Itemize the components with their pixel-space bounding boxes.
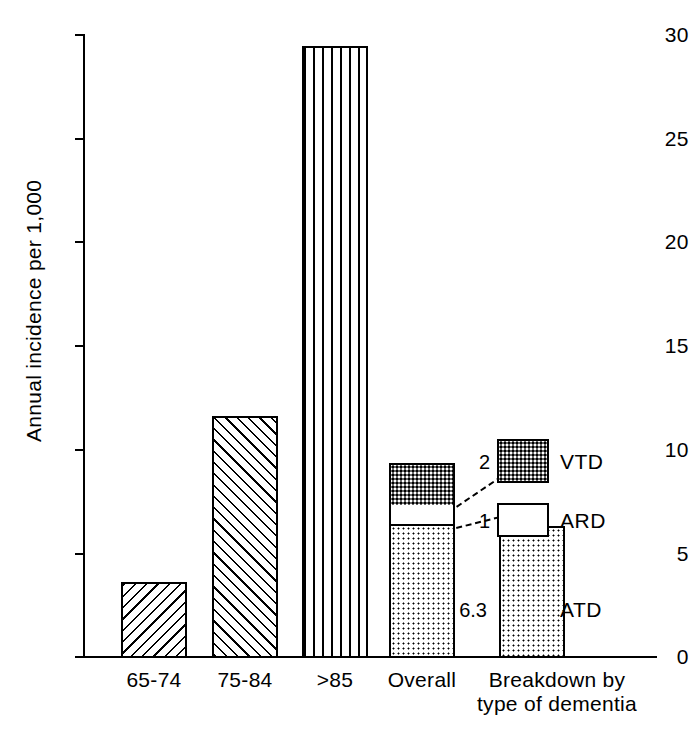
bar-overall-segment-ard: [389, 505, 455, 526]
y-tick-label-25: 25: [643, 128, 689, 149]
bar-over-85: [302, 46, 368, 658]
y-tick-20: [75, 241, 85, 243]
y-tick-30: [75, 34, 85, 36]
legend-swatch-ard: [497, 503, 549, 537]
x-label-breakdown-line2: type of dementia: [457, 692, 657, 716]
legend-label-vtd: VTD: [560, 451, 604, 472]
y-tick-label-10: 10: [643, 439, 689, 460]
y-tick-15: [75, 345, 85, 347]
bar-overall-segment-atd: [389, 526, 455, 658]
legend-value-vtd: 2: [452, 452, 490, 472]
bar-75-84: [212, 416, 278, 658]
y-tick-10: [75, 449, 85, 451]
legend-swatch-vtd: [497, 439, 549, 483]
y-tick-25: [75, 138, 85, 140]
y-tick-0: [75, 656, 85, 658]
y-tick-5: [75, 553, 85, 555]
y-tick-label-30: 30: [643, 24, 689, 45]
legend-value-ard: 1: [452, 511, 490, 531]
legend-label-atd: ATD: [560, 599, 602, 620]
x-label-breakdown-line1: Breakdown by: [457, 668, 657, 692]
x-label-over-85: >85: [285, 668, 385, 692]
x-label-65-74: 65-74: [104, 668, 204, 692]
bar-chart: Annual incidence per 1,000 0 5 10 15 20 …: [0, 0, 689, 752]
y-tick-label-0: 0: [643, 646, 689, 667]
y-axis-title: Annual incidence per 1,000: [22, 182, 46, 442]
legend-label-ard: ARD: [560, 510, 606, 531]
y-tick-label-20: 20: [643, 231, 689, 252]
legend-value-atd: 6.3: [429, 600, 487, 620]
x-label-75-84: 75-84: [195, 668, 295, 692]
y-tick-label-5: 5: [643, 543, 689, 564]
bar-65-74: [121, 582, 187, 658]
bar-breakdown-atd: [499, 526, 565, 658]
bar-overall-segment-vtd: [389, 463, 455, 505]
y-tick-label-15: 15: [643, 335, 689, 356]
